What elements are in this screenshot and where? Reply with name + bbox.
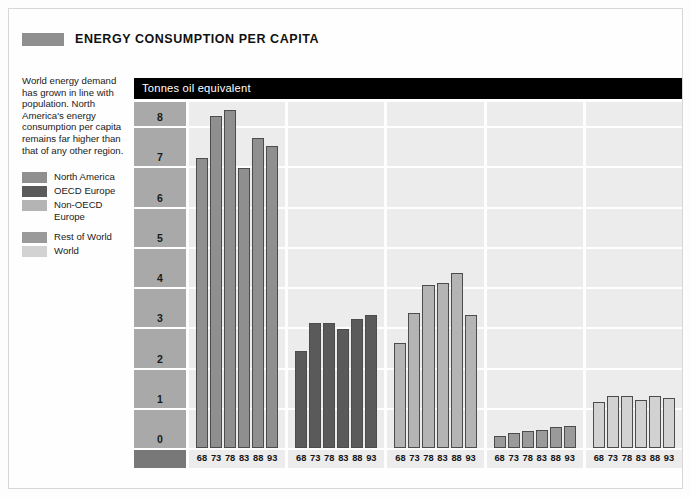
- legend-label: Rest of World: [54, 231, 112, 242]
- x-axis-labels: 687378838893: [586, 448, 682, 468]
- bar[interactable]: [536, 430, 548, 448]
- legend-swatch-icon: [22, 246, 47, 257]
- x-axis-tick-label: 88: [451, 453, 463, 463]
- bar[interactable]: [635, 400, 647, 448]
- chart-panel-non-oecd-europe: 687378838893: [387, 102, 483, 468]
- bar[interactable]: [224, 110, 236, 448]
- y-axis-label: 4: [134, 272, 186, 284]
- x-axis-tick-label: 73: [408, 453, 420, 463]
- y-gridline: [134, 126, 186, 128]
- bar[interactable]: [494, 436, 506, 448]
- x-axis-labels: 687378838893: [189, 448, 285, 468]
- legend-label: OECD Europe: [54, 185, 115, 196]
- y-gridline: [134, 287, 186, 289]
- bar[interactable]: [252, 138, 264, 448]
- x-axis-tick-label: 88: [351, 453, 363, 463]
- bar[interactable]: [663, 398, 675, 448]
- y-axis: 012345678: [134, 102, 186, 468]
- x-axis-tick-label: 68: [593, 453, 605, 463]
- bar[interactable]: [351, 319, 363, 448]
- bar[interactable]: [550, 427, 562, 448]
- y-axis-label: 0: [134, 433, 186, 445]
- bar[interactable]: [408, 313, 420, 448]
- bar[interactable]: [508, 433, 520, 448]
- x-axis-tick-label: 88: [649, 453, 661, 463]
- plot-row: 012345678 687378838893687378838893687378…: [134, 102, 682, 468]
- legend-item-oecd-europe: OECD Europe: [22, 185, 126, 197]
- legend-swatch-icon: [22, 186, 47, 197]
- bar-group: [387, 102, 483, 448]
- legend-label: Non-OECD Europe: [54, 199, 126, 222]
- y-axis-label: 3: [134, 312, 186, 324]
- units-banner: Tonnes oil equivalent: [134, 78, 682, 99]
- x-axis-labels: 687378838893: [288, 448, 384, 468]
- bar-group: [288, 102, 384, 448]
- bar[interactable]: [649, 396, 661, 448]
- x-axis-tick-label: 93: [266, 453, 278, 463]
- bar[interactable]: [451, 273, 463, 448]
- y-axis-label: 2: [134, 353, 186, 365]
- bar[interactable]: [593, 402, 605, 448]
- x-axis-tick-label: 93: [564, 453, 576, 463]
- x-axis-tick-label: 88: [550, 453, 562, 463]
- y-gridline: [134, 207, 186, 209]
- x-axis-tick-label: 83: [437, 453, 449, 463]
- bar[interactable]: [309, 323, 321, 448]
- y-axis-label: 6: [134, 192, 186, 204]
- y-axis-label: 8: [134, 111, 186, 123]
- x-axis-tick-label: 78: [522, 453, 534, 463]
- title-swatch: [22, 33, 64, 46]
- y-axis-label: 1: [134, 393, 186, 405]
- legend-item-non-oecd-europe: Non-OECD Europe: [22, 199, 126, 222]
- x-axis-tick-label: 73: [309, 453, 321, 463]
- sidebar: World energy demand has grown in line wi…: [22, 75, 126, 259]
- bar[interactable]: [210, 116, 222, 448]
- x-axis-tick-label: 73: [607, 453, 619, 463]
- x-axis-tick-label: 73: [508, 453, 520, 463]
- legend-swatch-icon: [22, 200, 47, 211]
- x-axis-tick-label: 83: [238, 453, 250, 463]
- y-axis-label: 7: [134, 151, 186, 163]
- chart-panel-rest-of-world: 687378838893: [487, 102, 583, 468]
- x-axis-tick-label: 68: [196, 453, 208, 463]
- x-axis-tick-label: 68: [394, 453, 406, 463]
- bar[interactable]: [337, 329, 349, 448]
- chart-container: Tonnes oil equivalent 012345678 68737883…: [134, 78, 682, 468]
- y-gridline: [134, 247, 186, 249]
- y-axis-label: 5: [134, 232, 186, 244]
- chart-panel-world: 687378838893: [586, 102, 682, 468]
- x-axis-tick-label: 93: [465, 453, 477, 463]
- bar[interactable]: [437, 283, 449, 448]
- x-axis-tick-label: 83: [536, 453, 548, 463]
- bar[interactable]: [295, 351, 307, 448]
- chart-legend: North AmericaOECD EuropeNon-OECD EuropeR…: [22, 171, 126, 257]
- bar[interactable]: [323, 323, 335, 448]
- x-axis-tick-label: 78: [224, 453, 236, 463]
- x-axis-tick-label: 83: [635, 453, 647, 463]
- bar-group: [586, 102, 682, 448]
- bar[interactable]: [266, 146, 278, 448]
- bar[interactable]: [564, 426, 576, 448]
- infographic-page: ENERGY CONSUMPTION PER CAPITA World ener…: [0, 0, 691, 497]
- bar[interactable]: [621, 396, 633, 448]
- bar[interactable]: [238, 168, 250, 448]
- x-axis-tick-label: 68: [494, 453, 506, 463]
- bar[interactable]: [196, 158, 208, 448]
- chart-title-bar: ENERGY CONSUMPTION PER CAPITA: [22, 28, 622, 50]
- bar[interactable]: [465, 315, 477, 448]
- legend-label: World: [54, 245, 79, 256]
- bar[interactable]: [394, 343, 406, 448]
- legend-swatch-icon: [22, 232, 47, 243]
- bar[interactable]: [522, 431, 534, 448]
- bar[interactable]: [365, 315, 377, 448]
- legend-swatch-icon: [22, 172, 47, 183]
- legend-item-rest-of-world: Rest of World: [22, 231, 126, 243]
- bar[interactable]: [422, 285, 434, 448]
- x-axis-tick-label: 73: [210, 453, 222, 463]
- x-axis-tick-label: 78: [621, 453, 633, 463]
- y-gridline: [134, 166, 186, 168]
- x-axis-tick-label: 88: [252, 453, 264, 463]
- x-axis-labels: 687378838893: [387, 448, 483, 468]
- legend-item-world: World: [22, 245, 126, 257]
- bar[interactable]: [607, 396, 619, 448]
